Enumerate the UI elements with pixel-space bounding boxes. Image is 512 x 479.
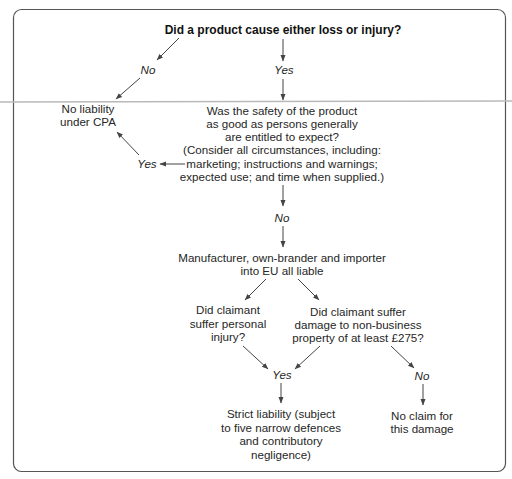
svg-text:marketing; instructions and wa: marketing; instructions and warnings; (186, 157, 377, 170)
svg-text:are entitled to expect?: are entitled to expect? (225, 130, 340, 143)
safety-no-label: No (275, 211, 290, 224)
safety-question: Was the safety of the product as good as… (180, 104, 384, 183)
svg-text:this damage: this damage (390, 422, 453, 435)
svg-text:Did claimant suffer: Did claimant suffer (310, 305, 406, 318)
svg-text:and contributory: and contributory (239, 434, 322, 447)
svg-text:property of at least £275?: property of at least £275? (292, 331, 424, 344)
top-no-label: No (141, 63, 156, 76)
svg-text:Manufacturer, own-brander and: Manufacturer, own-brander and importer (178, 251, 386, 264)
svg-text:No liability: No liability (62, 102, 115, 115)
safety-yes-label: Yes (137, 157, 157, 170)
svg-text:negligence): negligence) (251, 448, 311, 461)
product-liability-flowchart: Did a product cause either loss or injur… (0, 0, 512, 479)
property-damage-question: Did claimant suffer damage to non-busine… (292, 305, 424, 344)
svg-text:suffer personal: suffer personal (190, 317, 266, 330)
svg-text:to five narrow defences: to five narrow defences (221, 421, 341, 434)
claim-no-label: No (415, 369, 430, 382)
svg-text:Did claimant: Did claimant (196, 303, 261, 316)
svg-text:(Consider all circumstances, i: (Consider all circumstances, including: (183, 143, 381, 156)
no-claim-outcome: No claim for this damage (390, 409, 453, 435)
start-question: Did a product cause either loss or injur… (165, 23, 402, 37)
diagram-frame (14, 10, 506, 472)
svg-text:under CPA: under CPA (60, 115, 116, 128)
no-liability-outcome: No liability under CPA (60, 102, 116, 128)
svg-text:injury?: injury? (211, 330, 246, 343)
svg-text:as good as persons generally: as good as persons generally (206, 117, 358, 130)
top-yes-label: Yes (274, 63, 294, 76)
svg-text:No claim for: No claim for (391, 409, 453, 422)
svg-text:Strict liability (subject: Strict liability (subject (227, 407, 336, 420)
svg-text:Was the safety of the product: Was the safety of the product (207, 104, 358, 117)
svg-text:damage to non-business: damage to non-business (295, 318, 422, 331)
svg-text:into EU all liable: into EU all liable (240, 264, 323, 277)
claim-yes-label: Yes (272, 368, 292, 381)
svg-text:expected use; and time when su: expected use; and time when supplied.) (180, 170, 384, 183)
